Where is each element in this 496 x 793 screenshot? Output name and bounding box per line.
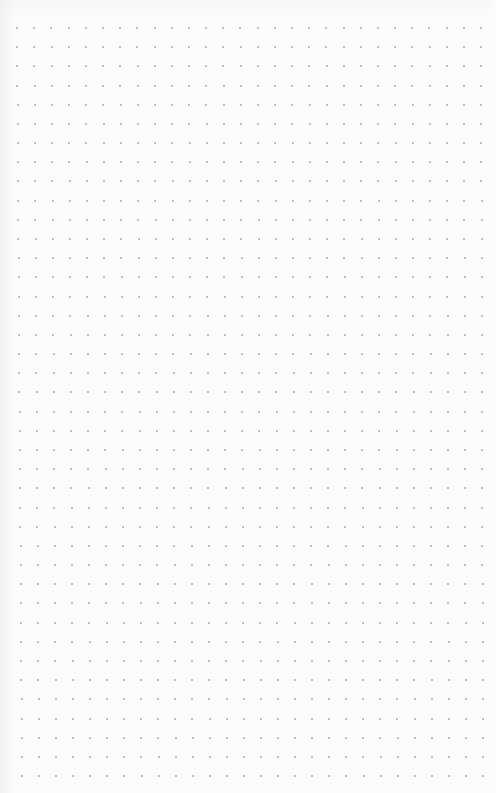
grid-dot [35,315,37,317]
grid-dot [463,238,465,240]
grid-dot [291,85,293,87]
grid-dot [361,372,363,374]
grid-dot [51,65,53,67]
grid-dot [447,487,449,489]
grid-dot [464,334,466,336]
grid-dot [430,449,432,451]
grid-dot [207,468,209,470]
grid-dot [103,142,105,144]
grid-dot [430,526,432,528]
grid-dot [205,46,207,48]
grid-dot [481,507,483,509]
grid-dot [34,85,36,87]
grid-dot [292,334,294,336]
grid-dot [464,276,466,278]
grid-dot [104,296,106,298]
grid-dot [258,257,260,259]
grid-dot [277,775,279,777]
grid-dot [226,737,228,739]
grid-dot [207,315,209,317]
grid-dot [17,142,19,144]
grid-dot [276,583,278,585]
grid-dot [259,487,261,489]
grid-dot [447,353,449,355]
grid-dot [19,411,21,413]
grid-dot [156,468,158,470]
grid-dot [139,430,141,432]
grid-dot [51,142,53,144]
grid-dot [345,602,347,604]
grid-dot [446,219,448,221]
grid-dot [362,737,364,739]
grid-dot [328,564,330,566]
grid-dot [429,123,431,125]
grid-dot [395,219,397,221]
grid-dot [328,660,330,662]
grid-dot [258,276,260,278]
grid-dot [240,219,242,221]
grid-dot [429,46,431,48]
grid-dot [294,775,296,777]
grid-dot [35,334,37,336]
grid-dot [89,718,91,720]
grid-dot [38,775,40,777]
grid-dot [274,46,276,48]
grid-dot [344,430,346,432]
grid-dot [447,602,449,604]
grid-dot [257,46,259,48]
grid-dot [259,641,261,643]
grid-dot [344,334,346,336]
grid-dot [172,276,174,278]
grid-dot [18,257,20,259]
grid-dot [21,775,23,777]
grid-dot [294,737,296,739]
grid-dot [242,545,244,547]
grid-dot [464,507,466,509]
grid-dot [396,487,398,489]
grid-dot [429,180,431,182]
grid-dot [71,564,73,566]
grid-dot [309,123,311,125]
grid-dot [37,545,39,547]
grid-dot [482,737,484,739]
grid-dot [310,545,312,547]
grid-dot [257,123,259,125]
grid-dot [171,142,173,144]
grid-dot [429,104,431,106]
grid-dot [225,641,227,643]
grid-dot [291,46,293,48]
grid-dot [360,142,362,144]
grid-dot [241,411,243,413]
grid-dot [379,679,381,681]
grid-dot [294,641,296,643]
grid-dot [87,315,89,317]
grid-dot [379,545,381,547]
grid-dot [122,507,124,509]
grid-dot [362,756,364,758]
grid-dot [310,391,312,393]
grid-dot [411,65,413,67]
grid-dot [360,85,362,87]
grid-dot [360,180,362,182]
grid-dot [154,180,156,182]
grid-dot [155,238,157,240]
grid-dot [294,622,296,624]
grid-dot [243,775,245,777]
grid-dot [34,180,36,182]
grid-dot [242,468,244,470]
grid-dot [173,391,175,393]
grid-dot [156,430,158,432]
grid-dot [292,180,294,182]
grid-dot [123,622,125,624]
grid-dot [277,698,279,700]
grid-dot [275,353,277,355]
grid-dot [20,622,22,624]
grid-dot [412,219,414,221]
grid-dot [394,46,396,48]
grid-dot [481,545,483,547]
grid-dot [55,679,57,681]
grid-dot [326,142,328,144]
grid-dot [55,756,57,758]
grid-dot [189,334,191,336]
grid-dot [157,641,159,643]
